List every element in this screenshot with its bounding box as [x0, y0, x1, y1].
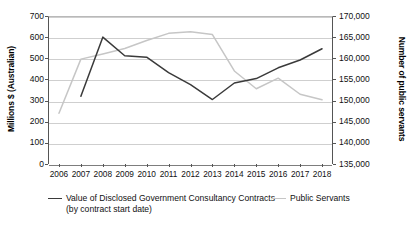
y-axis-left-tick-label: 200 [4, 117, 44, 126]
x-axis-tick-mark [125, 164, 126, 167]
y-axis-right-tick-mark [333, 101, 336, 102]
line-consultancy-value [81, 37, 322, 99]
y-axis-left-tick-mark [45, 58, 48, 59]
x-axis-tick-mark [81, 164, 82, 167]
y-axis-left-tick-mark [45, 122, 48, 123]
y-axis-left-tick-label: 500 [4, 54, 44, 63]
legend-label-public-servants: Public Servants [290, 193, 392, 204]
x-axis-tick-mark [234, 164, 235, 167]
y-axis-left-tick-label: 0 [4, 160, 44, 169]
y-axis-right-tick-mark [333, 79, 336, 80]
legend-line-icon-consultancy [48, 198, 62, 199]
y-axis-right-tick-label: 170,000 [339, 12, 385, 21]
y-axis-right-tick-mark [333, 58, 336, 59]
y-axis-left-tick-label: 300 [4, 96, 44, 105]
y-axis-left-tick-label: 700 [4, 12, 44, 21]
y-axis-left-tick-mark [45, 101, 48, 102]
x-axis-tick-mark [169, 164, 170, 167]
x-axis-tick-mark [212, 164, 213, 167]
y-axis-left-tick-mark [45, 164, 48, 165]
y-axis-right-tick-mark [333, 143, 336, 144]
x-axis-tick-mark [278, 164, 279, 167]
x-axis-tick-mark [300, 164, 301, 167]
legend-label-consultancy: Value of Disclosed Government Consultanc… [66, 193, 278, 215]
y-axis-left-tick-mark [45, 16, 48, 17]
legend-item-public-servants: Public Servants [272, 193, 392, 204]
y-axis-right-tick-label: 150,000 [339, 96, 385, 105]
y-axis-left-tick-label: 100 [4, 138, 44, 147]
y-axis-right-tick-label: 140,000 [339, 138, 385, 147]
x-axis-tick-mark [147, 164, 148, 167]
y-axis-right-tick-label: 165,000 [339, 33, 385, 42]
y-axis-right-tick-label: 135,000 [339, 160, 385, 169]
x-axis-tick-mark [103, 164, 104, 167]
legend-line-icon-public-servants [272, 198, 286, 199]
y-axis-right-tick-mark [333, 164, 336, 165]
x-axis-tick-label: 2018 [307, 169, 337, 179]
y-axis-right-tick-label: 145,000 [339, 117, 385, 126]
x-axis-tick-mark [59, 164, 60, 167]
y-axis-left-tick-label: 600 [4, 33, 44, 42]
y-axis-right-tick-mark [333, 122, 336, 123]
x-axis-tick-mark [322, 164, 323, 167]
y-axis-left-tick-mark [45, 37, 48, 38]
x-axis-tick-mark [256, 164, 257, 167]
y-axis-left-tick-label: 400 [4, 75, 44, 84]
chart-container: Millions $ (Australian) Number of public… [0, 0, 412, 225]
legend-item-consultancy: Value of Disclosed Government Consultanc… [48, 193, 278, 215]
x-axis-tick-mark [191, 164, 192, 167]
y-axis-right-tick-mark [333, 16, 336, 17]
line-public-servants [59, 32, 322, 114]
y-axis-right-tick-label: 155,000 [339, 75, 385, 84]
y-axis-right-tick-mark [333, 37, 336, 38]
y-axis-left-tick-mark [45, 143, 48, 144]
y-axis-left-tick-mark [45, 79, 48, 80]
y-axis-right-tick-label: 160,000 [339, 54, 385, 63]
